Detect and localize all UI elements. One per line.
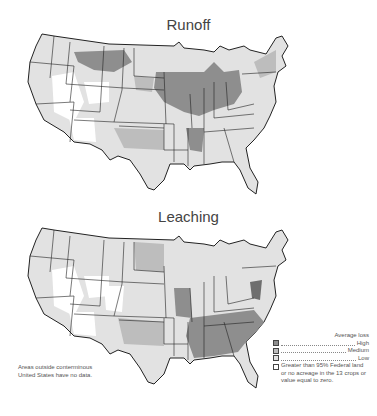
- legend-item-high: High: [273, 340, 369, 348]
- leader-dots: [281, 341, 355, 346]
- leaching-map-title: Leaching: [0, 208, 377, 225]
- note-line-1: Areas outside conterminous: [18, 363, 128, 371]
- legend-item-medium: Medium: [273, 347, 369, 355]
- note-line-2: United States have no data.: [18, 371, 128, 379]
- legend-none-line-1: Greater than 95% Federal land: [281, 362, 366, 370]
- legend-label-low: Low: [358, 355, 369, 363]
- legend-label-high: High: [357, 340, 369, 348]
- no-data-note: Areas outside conterminous United States…: [18, 363, 128, 379]
- runoff-map-title: Runoff: [0, 16, 377, 33]
- legend-title: Average loss: [273, 332, 369, 340]
- runoff-map: [14, 32, 304, 202]
- legend-item-none: Greater than 95% Federal land or no acre…: [273, 362, 369, 385]
- legend-none-line-2: or no acreage in the 13 crops or: [281, 370, 366, 378]
- legend-item-low: Low: [273, 355, 369, 363]
- low-swatch-icon: [273, 355, 279, 361]
- legend: Average loss High Medium Low Greater tha…: [273, 332, 369, 385]
- leader-dots: [281, 348, 346, 353]
- medium-swatch-icon: [273, 348, 279, 354]
- legend-none-line-3: value equal to zero.: [281, 377, 366, 385]
- none-swatch-icon: [273, 364, 279, 370]
- high-swatch-icon: [273, 340, 279, 346]
- leader-dots: [281, 356, 356, 361]
- legend-label-medium: Medium: [348, 347, 369, 355]
